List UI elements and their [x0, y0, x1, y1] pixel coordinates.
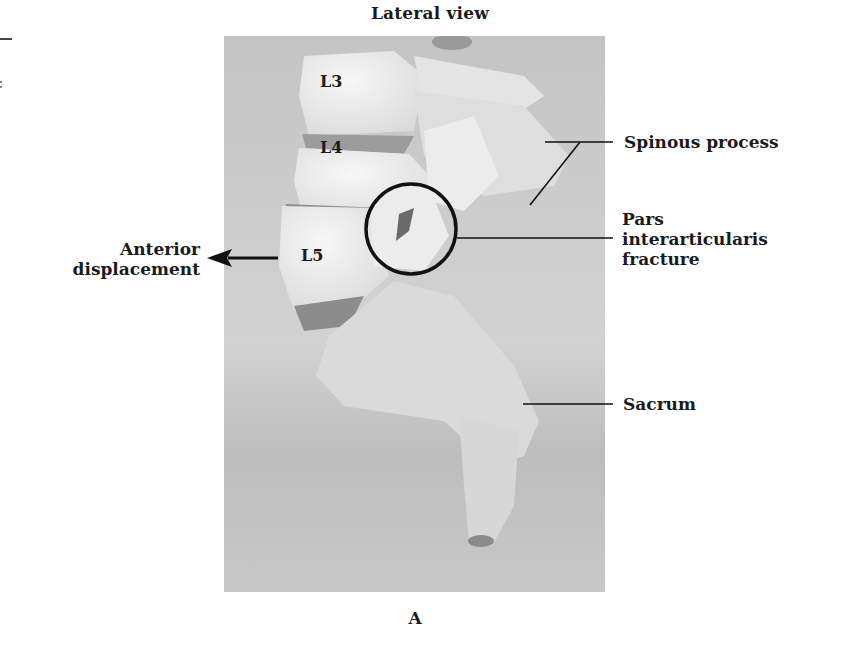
label-pars-line3: fracture [622, 249, 700, 269]
figure-caption: A [400, 608, 430, 628]
figure-title: Lateral view [330, 3, 530, 23]
page-edge-dash [0, 38, 12, 40]
label-pars-line1: Pars [622, 209, 664, 229]
spine-photo [224, 36, 605, 592]
label-anterior-line2: displacement [60, 259, 200, 279]
label-spinous-process: Spinous process [624, 132, 779, 152]
label-sacrum: Sacrum [623, 394, 696, 414]
vertebra-label-l3: L3 [320, 72, 342, 91]
vertebra-label-l5: L5 [301, 246, 323, 265]
label-pars-line2: interarticularis [622, 229, 768, 249]
vertebra-label-l4: L4 [320, 138, 342, 157]
page-edge-fragment [0, 81, 3, 91]
vertebra-l3-shape [299, 51, 424, 136]
label-anterior-line1: Anterior [100, 239, 200, 259]
